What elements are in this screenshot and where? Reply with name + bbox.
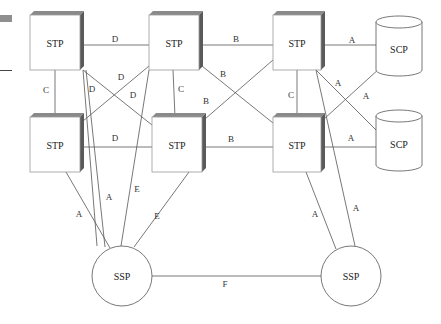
links-layer	[55, 45, 380, 276]
link-d	[83, 66, 149, 121]
link-a	[86, 70, 105, 247]
link-label: D	[112, 35, 119, 44]
link-label: E	[154, 212, 160, 221]
link-label: A	[335, 79, 342, 88]
ssp-label: SSP	[343, 271, 360, 282]
link-label: A	[106, 193, 113, 202]
link-label: B	[220, 70, 226, 79]
link-b	[202, 66, 273, 123]
link-a	[66, 172, 110, 248]
link-a	[324, 68, 380, 119]
stp-label: STP	[168, 139, 185, 150]
stp-label: STP	[288, 139, 305, 150]
link-label: D	[118, 73, 125, 82]
link-label: E	[134, 185, 140, 194]
link-label: A	[348, 134, 355, 143]
ssp-label: SSP	[114, 271, 131, 282]
link-d	[83, 70, 97, 246]
link-a	[306, 172, 336, 249]
link-label: C	[43, 86, 49, 95]
stp-label: STP	[46, 139, 63, 150]
scp-label: SCP	[390, 44, 408, 55]
stp-label: STP	[288, 37, 305, 48]
link-label: A	[76, 210, 83, 219]
link-label: B	[233, 35, 239, 44]
link-label: C	[288, 91, 294, 100]
link-label: A	[353, 204, 360, 213]
link-label: B	[228, 135, 234, 144]
stp-label: STP	[165, 37, 182, 48]
link-e	[134, 172, 189, 247]
link-label: A	[312, 210, 319, 219]
network-diagram	[0, 0, 441, 324]
nodes-layer	[30, 11, 422, 306]
stp-label: STP	[46, 37, 63, 48]
link-label: C	[178, 85, 184, 94]
link-label: D	[130, 91, 137, 100]
link-label: D	[89, 85, 96, 94]
link-label: A	[363, 92, 370, 101]
link-label: F	[222, 280, 227, 289]
link-label: B	[203, 97, 209, 106]
link-b	[205, 60, 273, 119]
link-label: D	[112, 134, 119, 143]
scp-label: SCP	[390, 138, 408, 149]
link-c	[173, 70, 175, 117]
link-label: A	[349, 36, 356, 45]
